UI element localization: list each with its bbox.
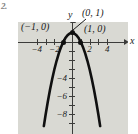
x-axis-name-label: x [130, 36, 134, 46]
point-marker-x-intercept-left [61, 40, 66, 45]
parabola-curve [18, 22, 128, 134]
y-axis-name-label: y [68, 10, 72, 20]
point-marker-x-intercept-right [78, 40, 83, 45]
problem-number-label: 2. [1, 1, 10, 12]
math-figure: 2. −4 −2 2 4 −4 −6 −8 [0, 0, 138, 134]
plot-panel: −4 −2 2 4 −4 −6 −8 [18, 22, 128, 134]
label-y-intercept: (0, 1) [82, 8, 104, 18]
label-x-intercept-left: (−1, 0) [21, 22, 49, 32]
label-x-intercept-right: (1, 0) [84, 24, 106, 34]
